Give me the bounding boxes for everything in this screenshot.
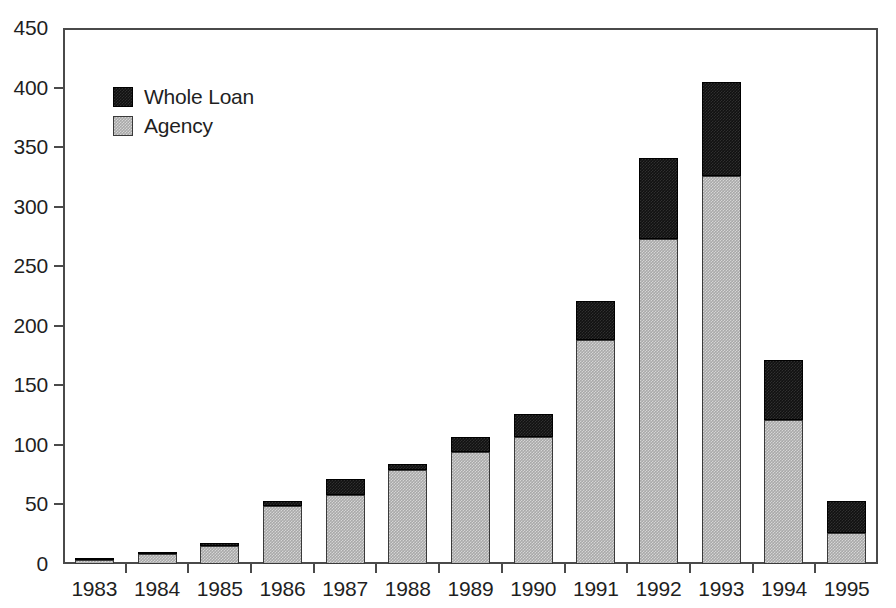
bar-segment-agency	[138, 554, 177, 564]
bar-segment-whole-loan	[263, 501, 302, 506]
bar-segment-agency	[639, 239, 678, 564]
bar-segment-agency	[388, 470, 427, 564]
bar-1992	[639, 158, 678, 564]
bar-segment-agency	[326, 495, 365, 564]
legend-item-whole: Whole Loan	[113, 83, 313, 110]
y-axis-tick-label: 0	[37, 550, 48, 577]
x-axis-tick-label: 1986	[251, 574, 314, 604]
x-axis-tick-label: 1993	[690, 574, 753, 604]
x-axis-tick-mark	[438, 564, 440, 573]
y-axis-tick-label: 300	[14, 193, 48, 220]
bar-1986	[263, 501, 302, 564]
x-axis-tick-mark	[626, 564, 628, 573]
x-axis-tick-label: 1995	[815, 574, 878, 604]
x-axis-tick-label: 1984	[126, 574, 189, 604]
y-axis-tick-label: 400	[14, 74, 48, 101]
bar-segment-whole-loan	[827, 501, 866, 533]
y-axis-tick-label: 50	[25, 490, 48, 517]
bar-segment-agency	[451, 452, 490, 564]
y-axis-tick-mark	[54, 503, 63, 505]
x-axis-tick-label: 1985	[188, 574, 251, 604]
legend-swatch-icon	[113, 87, 133, 107]
bar-1985	[200, 543, 239, 564]
y-axis-tick-mark	[54, 146, 63, 148]
x-axis-tick-label: 1994	[753, 574, 816, 604]
x-axis-tick-mark	[250, 564, 252, 573]
y-axis-tick-label: 100	[14, 431, 48, 458]
bar-segment-agency	[200, 546, 239, 564]
y-axis-tick-mark	[54, 384, 63, 386]
chart-legend: Whole LoanAgency	[113, 83, 313, 141]
bar-segment-agency	[827, 533, 866, 564]
bar-1993	[702, 82, 741, 564]
y-axis-tick-label: 150	[14, 371, 48, 398]
x-axis-tick-mark	[375, 564, 377, 573]
y-axis-tick-mark	[54, 87, 63, 89]
x-axis-tick-mark	[814, 564, 816, 573]
bar-1991	[576, 301, 615, 564]
bar-1995	[827, 501, 866, 564]
x-axis: 1983198419851986198719881989199019911992…	[63, 564, 878, 608]
y-axis-tick-label: 350	[14, 133, 48, 160]
x-axis-tick-label: 1989	[439, 574, 502, 604]
bar-1989	[451, 437, 490, 564]
x-axis-tick-label: 1983	[63, 574, 126, 604]
y-axis-tick-mark	[54, 325, 63, 327]
x-axis-tick-mark	[564, 564, 566, 573]
x-axis-tick-mark	[752, 564, 754, 573]
y-axis-tick-label: 200	[14, 312, 48, 339]
bar-1987	[326, 479, 365, 564]
legend-item-agency: Agency	[113, 112, 313, 139]
bar-segment-whole-loan	[576, 301, 615, 340]
bar-segment-whole-loan	[702, 82, 741, 176]
x-axis-tick-label: 1987	[314, 574, 377, 604]
bar-segment-whole-loan	[639, 158, 678, 239]
x-axis-tick-mark	[689, 564, 691, 573]
legend-item-label: Agency	[144, 114, 213, 138]
x-axis-tick-label: 1992	[627, 574, 690, 604]
bar-1984	[138, 552, 177, 564]
legend-swatch-icon	[113, 116, 133, 136]
stacked-bar-chart: 050100150200250300350400450 198319841985…	[0, 0, 896, 608]
x-axis-tick-mark	[125, 564, 127, 573]
bar-segment-agency	[576, 340, 615, 564]
bar-1994	[764, 360, 803, 564]
y-axis: 050100150200250300350400450	[0, 0, 63, 608]
bar-segment-agency	[263, 506, 302, 564]
x-axis-tick-label: 1990	[502, 574, 565, 604]
bar-segment-whole-loan	[138, 552, 177, 554]
bar-segment-whole-loan	[75, 558, 114, 560]
y-axis-tick-label: 450	[14, 14, 48, 41]
x-axis-tick-mark	[313, 564, 315, 573]
y-axis-tick-mark	[54, 444, 63, 446]
bar-segment-whole-loan	[764, 360, 803, 420]
bar-segment-agency	[764, 420, 803, 564]
legend-item-label: Whole Loan	[144, 85, 254, 109]
y-axis-tick-label: 250	[14, 252, 48, 279]
x-axis-tick-label: 1988	[376, 574, 439, 604]
y-axis-tick-mark	[54, 265, 63, 267]
x-axis-tick-mark	[187, 564, 189, 573]
x-axis-tick-label: 1991	[565, 574, 628, 604]
bar-segment-whole-loan	[326, 479, 365, 494]
bar-segment-whole-loan	[200, 543, 239, 547]
bar-1988	[388, 464, 427, 564]
bar-1990	[514, 414, 553, 564]
bar-segment-agency	[702, 176, 741, 564]
bar-segment-whole-loan	[388, 464, 427, 470]
bar-segment-agency	[514, 437, 553, 564]
x-axis-tick-mark	[501, 564, 503, 573]
bar-segment-whole-loan	[514, 414, 553, 437]
bar-segment-whole-loan	[451, 437, 490, 452]
y-axis-tick-mark	[54, 206, 63, 208]
